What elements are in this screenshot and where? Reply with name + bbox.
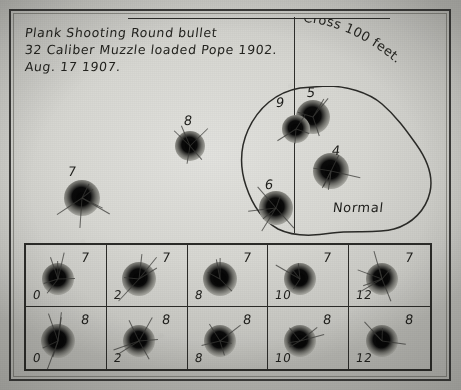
strip-cell-top-label: 7 [322,250,333,265]
strip-cell: 80 [26,307,107,369]
bullet-hole [204,325,236,357]
bullet-hole [284,263,316,295]
strip-cell: 72 [107,245,188,307]
bullet-hole [366,325,398,357]
bullet-hole [41,324,75,358]
bullet-hole-tear [219,325,240,341]
strip-cell: 70 [26,245,107,307]
strip-cell-bottom-label: 0 [32,351,42,365]
strip-cell: 78 [188,245,269,307]
group-caption: Normal [332,200,384,215]
title-block: Plank Shooting Round bullet 32 Caliber M… [25,24,277,75]
title-line-2: 32 Caliber Muzzle loaded Pope 1902. [24,41,278,58]
bullet-hole [313,153,349,189]
strip-cell-top-label: 7 [161,250,172,265]
comparison-strip-grid: 707278710712808288810812 [24,243,432,371]
strip-cell-bottom-label: 8 [193,288,203,302]
strip-cell-top-label: 8 [242,312,253,327]
bullet-hole [64,180,100,216]
strip-cell-top-label: 8 [322,312,333,327]
bullet-hole [284,325,316,357]
strip-cell-top-label: 7 [404,250,415,265]
bullet-hole-tear [57,260,58,278]
bullet-hole-tear [190,146,203,160]
bullet-hole-tear [276,264,301,279]
strip-cell: 88 [188,307,269,369]
strip-cell-bottom-label: 8 [193,351,203,365]
bullet-hole [123,325,155,357]
distance-note-textpath: Cross 100 feet. [303,18,405,66]
strip-cell-top-label: 8 [404,312,415,327]
distance-note-text: Cross 100 feet. [303,18,405,66]
strip-cell-top-label: 8 [161,312,172,327]
bullet-hole-tear [58,278,75,279]
target-photograph-sheet: Plank Shooting Round bullet 32 Caliber M… [0,0,461,390]
bullet-hole-tear [138,318,152,342]
strip-cell: 82 [107,307,188,369]
strip-cell-bottom-label: 0 [32,288,42,302]
strip-cell-top-label: 7 [80,250,91,265]
bullet-hole [366,263,398,295]
title-line-3: Aug. 17 1907. [24,58,278,75]
title-line-1: Plank Shooting Round bullet [24,24,278,41]
bullet-hole [282,115,310,143]
bullet-hole [203,262,237,296]
bullet-hole [259,191,293,225]
bullet-hole-tear [294,129,296,144]
strip-cell: 712 [349,245,430,307]
bullet-hole [175,131,205,161]
strip-cell: 810 [268,307,349,369]
bullet-hole-tear [219,258,220,279]
strip-cell-top-label: 7 [242,250,253,265]
bullet-hole-tear [300,327,317,341]
strip-cell: 812 [349,307,430,369]
bullet-hole [42,263,74,295]
bullet-hole [122,262,156,296]
bullet-hole-tear [139,339,158,342]
strip-cell: 710 [268,245,349,307]
strip-cell-top-label: 8 [80,312,91,327]
